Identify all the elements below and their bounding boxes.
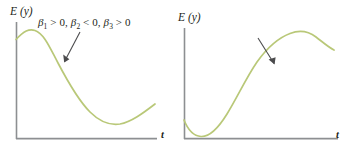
annotation-left: β1 > 0, β2 < 0, β3 > 0 bbox=[38, 17, 131, 31]
y-axis-label-left: E (y) bbox=[10, 6, 33, 18]
y-axis-label-right: E (y) bbox=[178, 12, 201, 24]
annotation-pointer-arrow-right bbox=[258, 38, 276, 65]
x-axis-label-right: t bbox=[336, 130, 339, 141]
chart-panel-left: E (y) β1 > 0, β2 < 0, β3 > 0 t bbox=[0, 0, 170, 153]
data-curve-right bbox=[184, 31, 334, 136]
annotation-pointer-arrow-left bbox=[63, 32, 80, 63]
x-axis-label-left: t bbox=[161, 130, 164, 141]
beta1-relation-left: > 0, bbox=[47, 16, 67, 28]
beta3-relation-left: > 0 bbox=[113, 16, 131, 28]
beta2-relation-left: < 0, bbox=[80, 16, 100, 28]
figure-container: E (y) β1 > 0, β2 < 0, β3 > 0 t E (y) β1 … bbox=[0, 0, 340, 153]
chart-panel-right: E (y) β1 < 0, β2 > 0, β3 < 0 t bbox=[170, 0, 340, 153]
data-curve-left bbox=[16, 30, 155, 124]
